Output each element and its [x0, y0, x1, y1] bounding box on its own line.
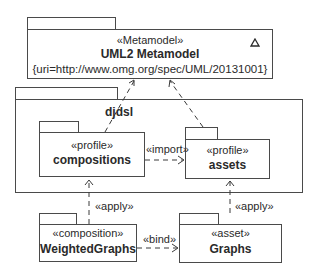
import-label: «import» — [146, 143, 189, 155]
apply-right-label: «apply» — [235, 200, 274, 212]
apply-left-label: «apply» — [95, 200, 134, 212]
bind-label: «bind» — [143, 233, 176, 245]
